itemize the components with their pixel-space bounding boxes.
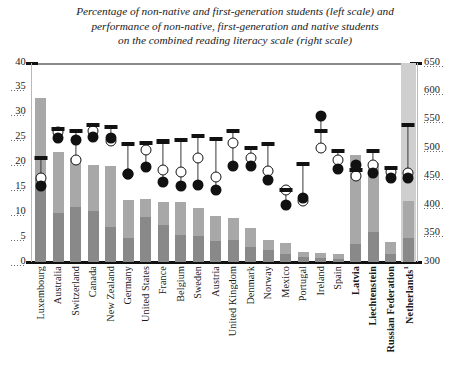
marker-non-native-score[interactable]: [158, 176, 169, 187]
marker-non-native-score[interactable]: [245, 160, 256, 171]
marker-native-score[interactable]: [52, 127, 65, 131]
marker-native-score[interactable]: [157, 139, 170, 143]
y-tick-mark-left: [11, 90, 25, 91]
marker-native-score[interactable]: [297, 162, 310, 166]
marker-native-score[interactable]: [227, 129, 240, 133]
bar-segment-non-native: [280, 243, 291, 254]
bar-group[interactable]: [53, 63, 64, 262]
y-tick-mark-right: [424, 208, 444, 209]
y-tick-mark-left: [11, 115, 25, 116]
marker-native-score[interactable]: [402, 123, 415, 127]
category-label: Switzerland: [70, 266, 81, 316]
y-tick-label-left: 40: [8, 56, 26, 67]
category-label: Portugal: [297, 266, 308, 301]
y-tick-mark-left: [11, 240, 25, 241]
marker-first-generation-score[interactable]: [315, 142, 326, 153]
y-tick-mark-left: [11, 215, 25, 216]
marker-first-generation-score[interactable]: [228, 138, 239, 149]
marker-native-score[interactable]: [384, 166, 397, 170]
marker-native-score[interactable]: [34, 156, 47, 160]
bar-segment-non-native: [228, 218, 239, 240]
marker-non-native-score[interactable]: [193, 179, 204, 190]
marker-non-native-score[interactable]: [123, 168, 134, 179]
marker-non-native-score[interactable]: [263, 174, 274, 185]
marker-non-native-score[interactable]: [333, 164, 344, 175]
category-label: Mexico: [280, 266, 291, 298]
bar-group[interactable]: [105, 63, 116, 262]
score-range-stem: [180, 140, 181, 186]
marker-native-score[interactable]: [332, 149, 345, 153]
bar-segment-non-native: [333, 254, 344, 259]
marker-non-native-score[interactable]: [368, 167, 379, 178]
y-tick-mark-right: [424, 94, 444, 95]
y-tick-mark-right: [424, 122, 444, 123]
marker-native-score[interactable]: [122, 142, 135, 146]
marker-native-score[interactable]: [314, 129, 327, 133]
marker-non-native-score[interactable]: [88, 131, 99, 142]
marker-non-native-score[interactable]: [228, 160, 239, 171]
category-label: Sweden: [192, 266, 203, 299]
category-label: Netherlands1: [402, 266, 415, 324]
marker-non-native-score[interactable]: [175, 180, 186, 191]
bar-segment-first-generation: [385, 254, 396, 262]
bar-group[interactable]: [88, 63, 99, 262]
bar-segment-first-generation: [158, 225, 169, 262]
marker-non-native-score[interactable]: [315, 110, 326, 121]
marker-non-native-score[interactable]: [70, 134, 81, 145]
marker-first-generation-score[interactable]: [140, 144, 151, 155]
bar-segment-non-native: [123, 200, 134, 238]
marker-non-native-score[interactable]: [403, 173, 414, 184]
marker-native-score[interactable]: [87, 123, 100, 127]
marker-non-native-score[interactable]: [210, 185, 221, 196]
marker-native-score[interactable]: [262, 142, 275, 146]
score-range-stem: [215, 139, 216, 190]
marker-native-score[interactable]: [349, 168, 362, 172]
marker-native-score[interactable]: [367, 149, 380, 153]
marker-first-generation-score[interactable]: [175, 166, 186, 177]
category-label: Ireland: [315, 266, 326, 296]
marker-first-generation-score[interactable]: [70, 154, 81, 165]
bar-group[interactable]: [280, 63, 291, 262]
category-label: Denmark: [245, 266, 256, 305]
bar-segment-first-generation: [315, 258, 326, 262]
marker-native-score[interactable]: [244, 146, 257, 150]
category-label: United States: [140, 266, 151, 322]
marker-first-generation-score[interactable]: [210, 171, 221, 182]
chart-title: Percentage of non-native and first-gener…: [30, 4, 440, 48]
bar-group[interactable]: [385, 63, 396, 262]
marker-native-score[interactable]: [139, 141, 152, 145]
bar-segment-first-generation: [333, 259, 344, 262]
axis-right-spine: [417, 63, 418, 262]
bar-segment-non-native: [210, 216, 221, 241]
marker-non-native-score[interactable]: [280, 200, 291, 211]
y-tick-mark-right: [424, 236, 444, 237]
marker-non-native-score[interactable]: [140, 162, 151, 173]
y-tick-mark-left: [11, 265, 25, 266]
bar-segment-non-native: [158, 202, 169, 224]
marker-native-score[interactable]: [174, 138, 187, 142]
category-label: Austria: [210, 266, 221, 297]
bar-segment-first-generation: [210, 241, 221, 262]
marker-non-native-score[interactable]: [385, 173, 396, 184]
marker-non-native-score[interactable]: [53, 133, 64, 144]
marker-non-native-score[interactable]: [105, 133, 116, 144]
y-tick-mark-right: [424, 66, 444, 67]
y-tick-mark-right: [424, 179, 444, 180]
marker-first-generation-score[interactable]: [193, 152, 204, 163]
bar-segment-first-generation: [53, 213, 64, 262]
bar-segment-first-generation: [368, 232, 379, 262]
footnote-marker: 1: [402, 266, 410, 270]
marker-non-native-score[interactable]: [298, 193, 309, 204]
category-label: Luxembourg: [35, 266, 46, 319]
marker-native-score[interactable]: [209, 137, 222, 141]
marker-native-score[interactable]: [192, 134, 205, 138]
marker-first-generation-score[interactable]: [158, 164, 169, 175]
marker-native-score[interactable]: [69, 129, 82, 133]
bar-group[interactable]: [315, 63, 326, 262]
marker-native-score[interactable]: [279, 188, 292, 192]
marker-native-score[interactable]: [104, 125, 117, 129]
category-label: Russian Federation: [385, 266, 396, 352]
marker-non-native-score[interactable]: [35, 181, 46, 192]
category-label: United Kingdom: [227, 266, 238, 336]
chart-title-line-2: performance of non-native, first-generat…: [30, 19, 440, 34]
